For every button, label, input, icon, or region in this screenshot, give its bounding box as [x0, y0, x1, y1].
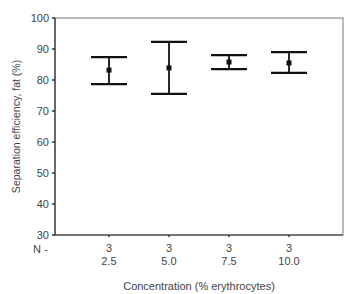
y-tick-label: 50	[37, 167, 49, 179]
y-tick-label: 40	[37, 198, 49, 210]
x-tick-label: 5.0	[161, 255, 176, 267]
x-tick-label: 7.5	[221, 255, 236, 267]
error-bar	[151, 42, 187, 94]
error-bar	[271, 52, 307, 73]
y-tick-label: 70	[37, 105, 49, 117]
x-axis-label: Concentration (% erythrocytes)	[123, 280, 275, 292]
n-value: 3	[166, 242, 172, 254]
n-value: 3	[286, 242, 292, 254]
x-tick-label: 10.0	[278, 255, 299, 267]
y-tick-label: 60	[37, 136, 49, 148]
y-tick-label: 30	[37, 229, 49, 241]
error-bar	[91, 57, 127, 84]
error-bar-chart: 30405060708090100Separation efficiency, …	[0, 0, 357, 294]
x-tick-label: 2.5	[101, 255, 116, 267]
n-value: 3	[226, 242, 232, 254]
n-label: N -	[33, 243, 48, 255]
error-bar	[211, 55, 247, 69]
n-value: 3	[106, 242, 112, 254]
y-tick-label: 80	[37, 74, 49, 86]
y-tick-label: 100	[31, 12, 49, 24]
y-axis-label: Separation efficiency, fat (%)	[10, 60, 22, 193]
plot-frame	[55, 18, 343, 235]
y-tick-label: 90	[37, 43, 49, 55]
